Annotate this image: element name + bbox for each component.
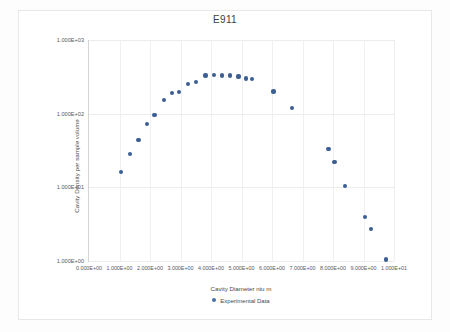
x-axis-title: Cavity Diameter niu m	[88, 285, 394, 292]
data-point	[220, 73, 224, 77]
data-point	[290, 106, 294, 110]
x-axis-tick-label: 4.000E+00	[198, 265, 224, 271]
chart-legend: Experimental Data	[88, 298, 394, 304]
legend-label: Experimental Data	[220, 298, 269, 304]
data-point	[250, 77, 254, 81]
data-point	[203, 73, 207, 77]
y-axis-tick-label: 1.000E+00	[57, 258, 84, 264]
data-point	[326, 147, 330, 151]
x-gridline	[120, 40, 121, 261]
data-point	[119, 170, 123, 174]
x-axis-tick-label: 2.000E+00	[137, 265, 163, 271]
x-gridline	[394, 40, 395, 261]
y-gridline	[89, 261, 394, 262]
data-point	[228, 73, 232, 77]
x-gridline	[272, 40, 273, 261]
data-point	[369, 227, 373, 231]
x-gridline	[181, 40, 182, 261]
x-gridline	[333, 40, 334, 261]
data-point	[170, 91, 174, 95]
legend-marker-icon	[212, 298, 216, 302]
x-axis-tick-label: 6.000E+00	[259, 265, 285, 271]
chart-title: E911	[0, 14, 450, 25]
x-axis-tick-label: 8.000E+00	[320, 265, 346, 271]
data-point	[194, 80, 198, 84]
data-point	[136, 138, 140, 142]
data-point	[145, 122, 149, 126]
x-axis-tick-label: 9.000E+00	[350, 265, 376, 271]
x-gridline	[242, 40, 243, 261]
y-axis-title: Cavity Density per sample volume	[73, 119, 80, 213]
data-point	[128, 152, 132, 156]
data-point	[186, 82, 190, 86]
data-point	[271, 89, 275, 93]
x-axis-tick-label: 1.000E+01	[381, 265, 407, 271]
data-point	[244, 76, 248, 80]
data-point	[152, 113, 156, 117]
y-axis-tick-label: 1.000E+03	[57, 37, 84, 43]
y-axis-tick-label: 1.000E+02	[57, 111, 84, 117]
x-gridline	[303, 40, 304, 261]
x-axis-tick-label: 1.000E+00	[106, 265, 132, 271]
data-point	[212, 73, 216, 77]
data-point	[162, 98, 166, 102]
x-axis-tick-label: 0.000E+00	[76, 265, 102, 271]
x-axis-tick-label: 5.000E+00	[228, 265, 254, 271]
y-axis-tick-label: 1.000E+01	[57, 184, 84, 190]
x-axis-tick-label: 3.000E+00	[167, 265, 193, 271]
x-gridline	[150, 40, 151, 261]
data-point	[236, 74, 240, 78]
data-point	[363, 215, 367, 219]
data-point	[332, 160, 336, 164]
chart-container: E911 Cavity Density per sample volume 1.…	[0, 0, 450, 332]
x-gridline	[364, 40, 365, 261]
plot-area: 1.000E+001.000E+011.000E+021.000E+030.00…	[88, 40, 394, 262]
x-axis-tick-label: 7.000E+00	[289, 265, 315, 271]
